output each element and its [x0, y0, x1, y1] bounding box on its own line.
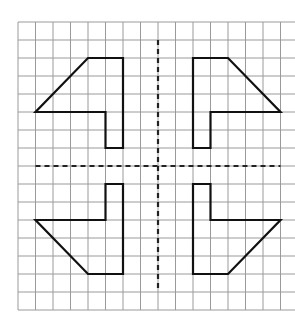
bottom-left-shape — [36, 184, 124, 274]
top-left-shape — [36, 58, 124, 148]
bottom-right-shape — [193, 184, 281, 274]
symmetry-grid-diagram — [0, 0, 295, 321]
top-right-shape — [193, 58, 281, 148]
